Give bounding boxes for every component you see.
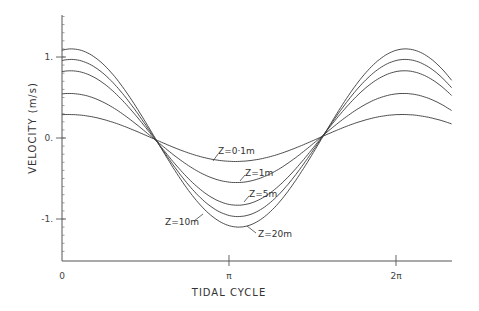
label-z-10m: Z=10m: [165, 217, 199, 227]
y-tick-label: 0.: [44, 133, 53, 143]
y-tick-label: 1.: [44, 52, 53, 62]
label-z-20m: Z=20m: [258, 229, 292, 239]
label-z-0-1m: Z=0·1m: [218, 146, 255, 156]
y-axis-title: VELOCITY (m/s): [27, 82, 38, 174]
velocity-chart: 1.0.-1. 0π2π Z=0·1m Z=1m Z=5m Z=10m Z=20…: [0, 0, 479, 311]
series-line: [62, 115, 452, 162]
x-tick-label: 2π: [390, 271, 402, 281]
y-tick-label: -1.: [41, 214, 53, 224]
x-tick-label: 0: [59, 271, 65, 281]
label-z-1m: Z=1m: [245, 168, 273, 178]
series-curves: [62, 49, 452, 227]
x-axis-title: TIDAL CYCLE: [191, 287, 266, 298]
x-tick-label: π: [226, 271, 232, 281]
label-z-5m: Z=5m: [249, 189, 277, 199]
x-ticks: 0π2π: [59, 255, 402, 281]
